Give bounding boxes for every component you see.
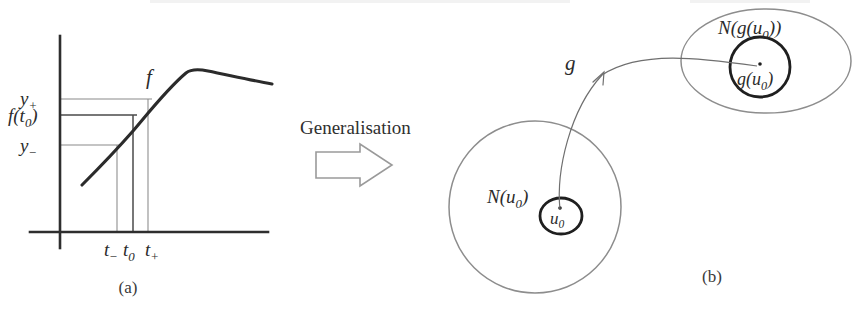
panel-a-caption: (a) (119, 278, 138, 297)
scan-artifact-top (150, 0, 570, 3)
curve-f (82, 70, 272, 185)
domain-neighbourhood-label-base: N(u (486, 186, 516, 208)
curve-label-f: f (146, 65, 155, 89)
domain-point-label-base: u (550, 209, 559, 228)
x-label-t0: t0 (123, 239, 135, 264)
y-label-y-minus-base: y (18, 135, 29, 156)
codomain-neighbourhood-label-base: N(g(u (717, 17, 762, 39)
codomain-point-label-base: g(u (737, 69, 761, 90)
map-arrow-g (559, 58, 757, 210)
domain-neighbourhood-label: N(u0) (486, 186, 528, 211)
map-label-g: g (565, 51, 576, 75)
codomain-point-dot (758, 62, 762, 66)
right-block-arrow-icon (316, 144, 392, 186)
y-label-f-t0-tail: ) (30, 105, 37, 127)
codomain-point-label-tail: ) (766, 69, 773, 90)
y-label-f-t0: f(t0) (8, 105, 38, 130)
y-label-y-minus: y− (18, 135, 37, 160)
panel-a: f y+ f(t0) y− t− t0 t+ (a) (8, 36, 272, 297)
x-label-t-minus: t− (104, 239, 118, 264)
domain-neighbourhood-circle (449, 121, 621, 293)
codomain-point-label: g(u0) (737, 69, 773, 93)
domain-point-label: u0 (550, 209, 565, 231)
domain-point-label-sub: 0 (559, 218, 565, 231)
figure-canvas: f y+ f(t0) y− t− t0 t+ (a) (0, 0, 857, 311)
y-label-y-minus-sub: − (28, 145, 37, 160)
panel-b-caption: (b) (702, 267, 722, 286)
x-label-t0-sub: 0 (128, 249, 135, 264)
generalisation-label: Generalisation (300, 117, 411, 138)
figure-root: f y+ f(t0) y− t− t0 t+ (a) (0, 0, 857, 311)
x-label-t-minus-sub: − (109, 249, 118, 264)
generalisation-transition: Generalisation (300, 117, 411, 186)
domain-neighbourhood-label-tail: ) (521, 186, 528, 208)
codomain-neighbourhood-label-tail: )) (768, 17, 782, 39)
panel-b: g N(u0) u0 N(g(u0)) g(u0) (b) (449, 9, 851, 293)
scan-artifact-top-right (690, 0, 810, 3)
y-label-f-t0-base: f(t (8, 105, 26, 127)
x-label-t-plus: t+ (145, 239, 159, 264)
x-label-t-plus-sub: + (150, 249, 159, 264)
